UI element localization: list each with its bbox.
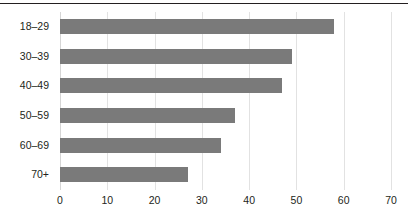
bar-row: 50–59 (60, 101, 391, 131)
bar (60, 78, 282, 93)
x-tick-label: 20 (149, 193, 161, 207)
x-tick-label: 10 (101, 193, 113, 207)
bar (60, 19, 334, 34)
bar (60, 108, 235, 123)
bar-row: 60–69 (60, 131, 391, 161)
bar-row: 40–49 (60, 71, 391, 101)
bar (60, 167, 188, 182)
bar-row: 70+ (60, 160, 391, 190)
title-divider-rule (0, 3, 408, 4)
bar-row: 18–29 (60, 12, 391, 42)
category-label: 50–59 (20, 106, 49, 125)
x-tick-label: 70 (385, 193, 397, 207)
bar-row: 30–39 (60, 42, 391, 72)
bars-layer: 18–2930–3940–4950–5960–6970+ (60, 12, 391, 190)
x-axis: 010203040506070 (60, 190, 391, 210)
x-tick-label: 40 (243, 193, 255, 207)
category-label: 18–29 (20, 17, 49, 36)
category-label: 60–69 (20, 136, 49, 155)
x-tick-label: 0 (57, 193, 63, 207)
x-tick-label: 60 (338, 193, 350, 207)
category-label: 30–39 (20, 47, 49, 66)
plot-area: 18–2930–3940–4950–5960–6970+ (60, 12, 391, 190)
category-label: 40–49 (20, 76, 49, 95)
x-tick-label: 30 (196, 193, 208, 207)
x-tick-label: 50 (291, 193, 303, 207)
bar-chart-figure: 18–2930–3940–4950–5960–6970+ 01020304050… (0, 0, 408, 213)
bar (60, 138, 221, 153)
chart-title (0, 0, 408, 2)
gridline-70 (391, 12, 392, 190)
bar (60, 49, 292, 64)
category-label: 70+ (31, 165, 49, 184)
